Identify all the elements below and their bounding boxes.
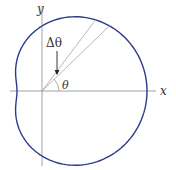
polar-diagram: x y Δθ θ [0, 0, 176, 170]
ray-upper [42, 20, 96, 91]
y-axis-label: y [36, 2, 44, 16]
x-axis-label: x [160, 84, 167, 98]
delta-theta-label: Δθ [46, 36, 62, 50]
theta-label: θ [62, 79, 69, 92]
theta-angle-arc [54, 79, 59, 91]
